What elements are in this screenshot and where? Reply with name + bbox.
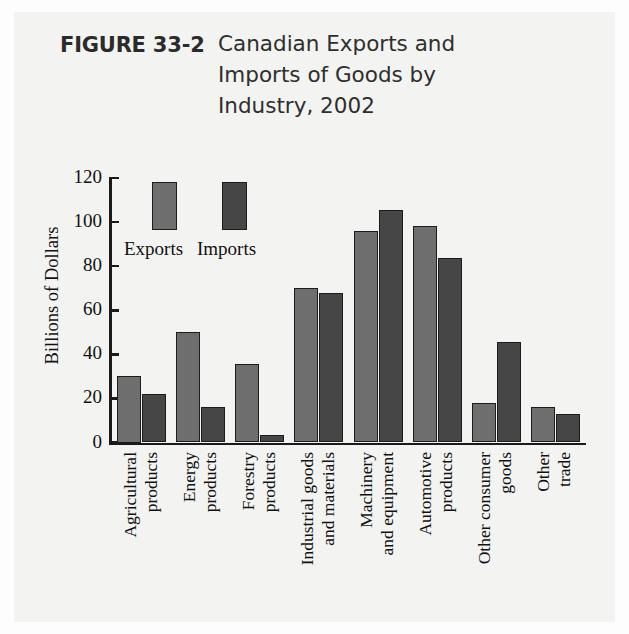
x-axis-label-3-line-1: Forestry: [238, 452, 258, 612]
x-axis-label-7-line-1: Other consumer: [474, 452, 494, 612]
x-axis-label-2-line-1: Energy: [179, 452, 199, 612]
legend-swatch-imports: [222, 182, 247, 230]
x-axis-label-3-line-2: products: [259, 452, 279, 612]
x-axis-label-5-line-2: and equipment: [377, 452, 397, 612]
legend-label-exports: Exports: [124, 238, 183, 260]
x-axis-label-2: Energyproducts: [179, 452, 201, 612]
x-axis-label-3: Forestryproducts: [238, 452, 260, 612]
x-axis-label-8-line-1: Other: [533, 452, 553, 612]
x-axis-label-2-line-2: products: [200, 452, 220, 612]
x-axis-label-4-line-2: and materials: [318, 452, 338, 612]
x-axis-label-8-line-2: trade: [554, 452, 574, 612]
x-axis-label-7-line-2: goods: [495, 452, 515, 612]
x-axis-label-6-line-1: Automotive: [415, 452, 435, 612]
x-axis-label-6-line-2: products: [436, 452, 456, 612]
bar-chart: Billions of Dollars 020406080100120 Expo…: [0, 0, 629, 634]
x-axis-label-5-line-1: Machinery: [356, 452, 376, 612]
legend-swatch-exports: [152, 182, 177, 230]
x-axis-label-7: Other consumergoods: [474, 452, 496, 612]
x-axis-label-4-line-1: Industrial goods: [297, 452, 317, 612]
x-axis-label-4: Industrial goodsand materials: [297, 452, 319, 612]
legend-label-imports: Imports: [197, 238, 256, 260]
x-axis-label-1-line-1: Agricultural: [120, 452, 140, 612]
x-axis-label-6: Automotiveproducts: [415, 452, 437, 612]
x-axis-label-5: Machineryand equipment: [356, 452, 378, 612]
x-axis-label-1: Agriculturalproducts: [120, 452, 142, 612]
figure-root: FIGURE 33-2 Canadian Exports and Imports…: [0, 0, 629, 634]
x-axis-label-8: Othertrade: [533, 452, 555, 612]
x-axis-label-1-line-2: products: [141, 452, 161, 612]
